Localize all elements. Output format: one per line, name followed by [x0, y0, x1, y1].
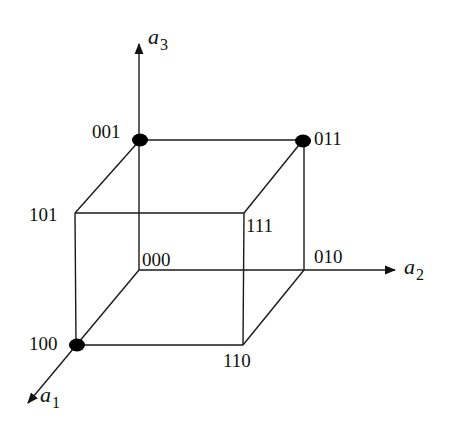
- edge-101-100: [75, 213, 76, 345]
- axis-label-a3: a3: [148, 26, 168, 53]
- vertex-dot-100: [69, 339, 85, 352]
- edge-011-111: [244, 140, 303, 213]
- axis-label-a1: a1: [40, 384, 60, 411]
- edge-010-110: [243, 270, 304, 345]
- boolean-cube-diagram: 001 011 101 111 000 010 100 110 a3 a2 a1: [0, 0, 450, 424]
- edge-001-101: [75, 140, 140, 213]
- vertex-label-111: 111: [246, 216, 273, 235]
- vertex-dot-001: [132, 134, 148, 147]
- vertex-dot-011: [295, 135, 311, 148]
- vertex-label-101: 101: [29, 205, 58, 224]
- vertex-label-001: 001: [92, 122, 121, 141]
- vertex-label-000: 000: [142, 250, 171, 269]
- vertex-label-110: 110: [223, 351, 251, 370]
- vertex-label-100: 100: [29, 334, 58, 353]
- edge-111-110: [243, 213, 244, 345]
- axis-label-a2: a2: [404, 256, 424, 283]
- vertex-label-010: 010: [314, 247, 343, 266]
- vertex-label-011: 011: [314, 129, 342, 148]
